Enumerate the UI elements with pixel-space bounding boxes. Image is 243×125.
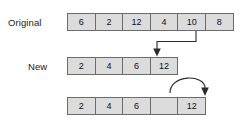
array-row-original: 6 2 12 4 10 8 (67, 13, 234, 31)
row-label-new: New (28, 62, 47, 72)
array-cell-empty[interactable] (150, 97, 179, 115)
array-cell[interactable]: 10 (177, 13, 206, 31)
array-cell[interactable]: 4 (150, 13, 179, 31)
curved-arrow-shift-twelve (170, 78, 209, 96)
array-cell[interactable]: 2 (67, 97, 96, 115)
array-cell[interactable]: 6 (67, 13, 96, 31)
array-row-new: 2 4 6 12 (67, 57, 178, 75)
array-cell[interactable]: 6 (122, 97, 151, 115)
array-cell[interactable]: 2 (95, 13, 124, 31)
elbow-arrow-original-to-new (153, 31, 196, 57)
diagram-canvas: Original 6 2 12 4 10 8 New 2 4 6 12 2 4 … (0, 0, 243, 125)
array-cell[interactable]: 4 (95, 97, 124, 115)
array-cell[interactable]: 12 (150, 57, 179, 75)
array-cell[interactable]: 12 (122, 13, 151, 31)
array-cell[interactable]: 6 (122, 57, 151, 75)
array-cell[interactable]: 12 (177, 97, 206, 115)
array-cell[interactable]: 8 (205, 13, 234, 31)
array-cell[interactable]: 4 (95, 57, 124, 75)
array-cell[interactable]: 2 (67, 57, 96, 75)
array-row-result: 2 4 6 12 (67, 97, 206, 115)
row-label-original: Original (8, 18, 42, 28)
